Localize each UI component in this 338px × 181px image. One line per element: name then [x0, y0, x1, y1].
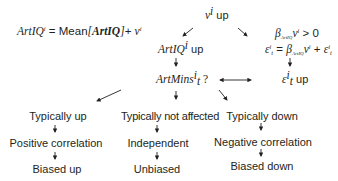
eps-up-symbol: ε [282, 73, 287, 85]
node-artmins: ArtMinsit ? [156, 73, 208, 86]
artiq-up-label: up [188, 43, 203, 55]
eps2-sub: t [330, 49, 332, 56]
eps-plus: + [311, 43, 324, 55]
eq-lhs-sup: i [44, 25, 46, 32]
artiq-sup: i [185, 39, 188, 51]
branch-independent: Independent [127, 137, 188, 150]
eq-v: v [135, 25, 140, 37]
eps-up-label: up [293, 73, 308, 85]
eps-equals: = [273, 43, 286, 55]
v-up-label: up [213, 9, 228, 21]
beta-v: v [292, 27, 297, 39]
beta-gt-zero: > 0 [299, 27, 319, 39]
eq-arg: ArtIQ [92, 25, 120, 37]
node-v-up: vi up [205, 9, 229, 22]
eps-up-sub: t [290, 75, 293, 87]
artmins-question: ? [200, 73, 208, 85]
eq-mean: Mean [59, 25, 88, 37]
eps-beta-sub: ArtIQ [292, 51, 304, 56]
branch-positive-correlation: Positive correlation [10, 137, 103, 150]
beta-inequality: βArtIQvi > 0 [275, 27, 319, 40]
eq-equals: = [46, 25, 59, 37]
branch-typically-up: Typically up [29, 110, 86, 123]
eps-v-sup: i [309, 43, 311, 50]
branch-biased-down: Biased down [231, 160, 294, 173]
eq-v-sup: i [140, 25, 142, 32]
eq-lhs: ArtIQ [17, 25, 44, 37]
branch-negative-correlation: Negative correlation [214, 136, 312, 149]
node-artiq-up: ArtIQi up [158, 43, 203, 56]
artiq-symbol: ArtIQ [158, 43, 185, 55]
arrow-v-to-artiq [183, 28, 193, 36]
artmins-symbol: ArtMins [156, 73, 194, 85]
arrow-to-typically-up [97, 90, 121, 101]
artiq-equation: ArtIQi = Mean[ArtIQ]+ vi [17, 25, 141, 38]
v-sup: i [210, 5, 213, 17]
arrow-to-typically-down [219, 90, 227, 100]
artmins-sub: t [197, 75, 200, 87]
node-eps-up: εit up [282, 73, 308, 86]
eps-sub: t [271, 49, 273, 56]
branch-biased-up: Biased up [33, 163, 82, 176]
eq-plus: + [125, 25, 135, 37]
arrow-v-to-beta [238, 28, 247, 36]
branch-not-affected: Typically not affected [121, 110, 219, 123]
branch-unbiased: Unbiased [134, 163, 180, 176]
eps-symbol: ε [265, 43, 270, 55]
beta-sub: ArtIQ [281, 35, 293, 40]
epsilon-equation: εit = βArtIQvi + εit [265, 43, 332, 56]
beta-symbol: β [275, 27, 281, 39]
branch-typically-down: Typically down [226, 110, 298, 123]
